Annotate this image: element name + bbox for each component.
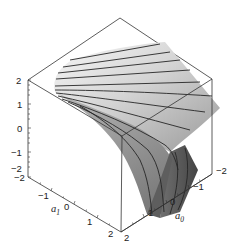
z-axis: 2 1 0 −1 −2 — [11, 75, 31, 177]
a0-tick-label: 2 — [124, 232, 129, 242]
a1-axis: −2 −1 0 1 2 a1 — [14, 172, 121, 239]
a0-axis-label: a0 — [175, 210, 184, 224]
z-tick-label: 0 — [17, 123, 22, 134]
a1-tick-label: −2 — [14, 172, 25, 183]
a1-axis-label: a1 — [51, 203, 60, 217]
z-tick-label: 1 — [17, 99, 22, 110]
z-tick-label: 2 — [16, 75, 21, 86]
a1-tick-label: −1 — [38, 190, 49, 201]
a1-tick-label: 0 — [64, 201, 69, 212]
a0-tick-label: 0 — [170, 196, 175, 207]
surface-plot-3d: 2 1 0 −1 −2 −2 −1 0 1 2 a1 2 1 0 −1 — [0, 0, 240, 242]
a1-tick-label: 1 — [87, 216, 92, 227]
a1-tick-label: 2 — [108, 228, 113, 239]
a0-tick-label: 1 — [148, 207, 153, 218]
z-tick-label: −1 — [11, 147, 22, 158]
a0-tick-label: −1 — [193, 181, 204, 192]
a0-tick-label: −2 — [216, 165, 227, 176]
